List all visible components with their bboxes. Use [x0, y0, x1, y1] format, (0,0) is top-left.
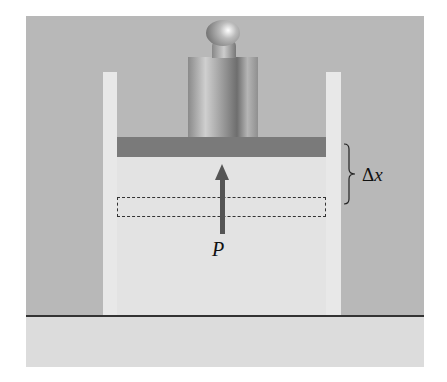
- delta-symbol: Δ: [362, 164, 374, 185]
- weight-knob: [206, 20, 240, 46]
- ground-line: [26, 315, 424, 317]
- weight-body: [188, 57, 258, 137]
- cylinder-wall-left: [103, 72, 117, 315]
- piston: [117, 137, 326, 157]
- pressure-arrow-head-icon: [215, 164, 229, 180]
- pressure-arrow-shaft: [220, 178, 225, 234]
- pressure-label: P: [212, 238, 224, 261]
- cylinder-wall-right: [326, 72, 341, 315]
- brace-icon: [342, 143, 358, 205]
- x-variable: x: [374, 164, 382, 185]
- displacement-label: Δx: [362, 164, 383, 186]
- floor: [26, 316, 424, 367]
